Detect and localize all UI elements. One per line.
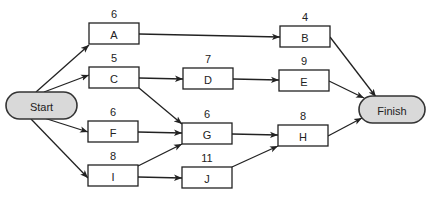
task-label: H [299,131,307,143]
task-label: E [300,76,307,88]
task-duration: 6 [110,106,116,118]
edge-start-to-c [44,75,89,92]
network-diagram: StartFinishA6B4C5D7E9F6G6H8I8J11 [0,0,429,197]
task-node-i: I8 [88,150,138,186]
task-node-a: A6 [89,8,139,44]
edge-start-to-i [31,119,88,178]
task-node-h: H8 [278,110,328,146]
task-duration: 5 [111,52,117,64]
edge-j-to-h [232,146,278,167]
task-node-c: C5 [89,52,139,88]
edge-f-to-g [138,132,182,133]
finish-label: Finish [377,105,406,117]
task-label: B [301,32,308,44]
task-duration: 9 [301,55,307,67]
task-duration: 4 [302,11,308,23]
edge-d-to-e [233,79,279,80]
finish-node: Finish [359,96,425,123]
edge-i-to-j [138,177,182,178]
task-label: F [110,127,117,139]
task-node-b: B4 [280,11,330,47]
edge-c-to-g [139,88,182,124]
task-duration: 7 [205,53,211,65]
edge-c-to-d [139,78,183,79]
start-label: Start [30,101,53,113]
task-label: J [204,173,210,185]
task-duration: 11 [201,152,212,164]
task-node-f: F6 [88,106,138,142]
task-label: C [110,73,118,85]
task-node-d: D7 [183,53,233,89]
start-node: Start [6,92,77,119]
edge-b-to-finish [330,37,376,97]
task-node-e: E9 [279,55,329,91]
task-duration: 8 [110,150,116,162]
task-label: A [110,29,118,41]
edge-start-to-f [44,118,88,132]
task-label: I [111,171,114,183]
edge-e-to-finish [329,81,364,98]
edge-a-to-b [139,34,280,37]
task-node-g: G6 [182,108,232,144]
task-label: D [204,74,212,86]
edge-g-to-h [232,134,278,135]
task-duration: 8 [300,110,306,122]
edge-h-to-finish [328,118,362,136]
task-node-j: J11 [182,152,232,188]
task-duration: 6 [111,8,117,20]
edge-i-to-g [138,144,182,166]
task-label: G [203,129,212,141]
task-duration: 6 [204,108,210,120]
